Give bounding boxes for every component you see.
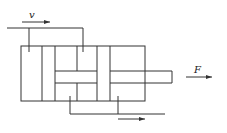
velocity-label: v xyxy=(29,9,35,20)
cylinder-body xyxy=(21,46,145,101)
piston-rod xyxy=(110,71,172,83)
inner-rod xyxy=(55,71,97,83)
force-label: F xyxy=(193,64,202,75)
bottom-pipe xyxy=(70,96,165,114)
top-pipe xyxy=(7,28,83,52)
hydraulic-cylinder-diagram: v F xyxy=(0,0,227,133)
